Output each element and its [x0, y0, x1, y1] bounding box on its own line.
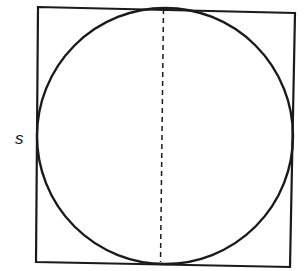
- inscribed-circle-diagram: s: [0, 0, 307, 271]
- inscribed-circle: [37, 8, 293, 264]
- diameter-dashed-line: [161, 9, 164, 262]
- side-label-s: s: [15, 129, 24, 148]
